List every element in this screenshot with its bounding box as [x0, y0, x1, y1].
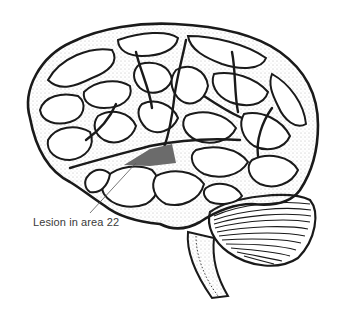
brain-illustration	[0, 0, 338, 315]
lesion-label: Lesion in area 22	[33, 216, 119, 228]
cerebrum	[28, 24, 318, 229]
brain-diagram: Lesion in area 22	[0, 0, 338, 315]
